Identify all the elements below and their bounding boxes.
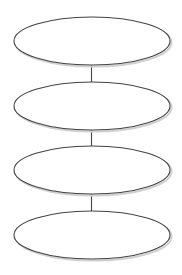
nodes-layer <box>14 17 172 261</box>
node-ellipse[interactable] <box>14 211 170 259</box>
ellipse-node-2[interactable] <box>14 82 172 132</box>
node-ellipse[interactable] <box>14 146 170 194</box>
ellipse-node-1[interactable] <box>14 17 172 67</box>
node-ellipse[interactable] <box>14 17 170 65</box>
ellipse-node-3[interactable] <box>14 146 172 196</box>
node-ellipse[interactable] <box>14 82 170 130</box>
flow-diagram <box>0 0 182 275</box>
ellipse-node-4[interactable] <box>14 211 172 261</box>
